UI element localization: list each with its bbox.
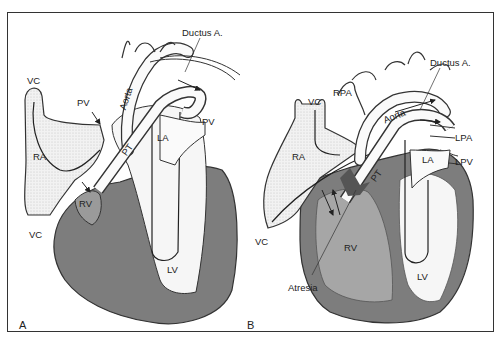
label-b-right-atrium: RA — [292, 152, 305, 162]
label-b-ductus-arteriosus: Ductus A. — [430, 58, 471, 68]
label-b-left-pulmonary-vein: LPV — [455, 157, 473, 167]
label-a-pulmonary-vein-left: PV — [77, 98, 90, 108]
label-b-left-atrium: LA — [422, 155, 434, 165]
label-b-vena-cava-bottom: VC — [255, 237, 268, 247]
heart-diagram-figure: Ductus A. VC PV Aorta PV LA PT RA RV VC … — [0, 0, 500, 352]
label-a-left-ventricle: LV — [167, 265, 178, 275]
label-a-ductus-arteriosus: Ductus A. — [182, 28, 223, 38]
label-a-left-atrium: LA — [157, 133, 169, 143]
label-a-right-atrium: RA — [33, 152, 46, 162]
panel-label-a: A — [19, 320, 26, 331]
panel-label-b: B — [247, 320, 254, 331]
label-a-vena-cava-bottom: VC — [29, 230, 42, 240]
label-b-left-pulmonary-artery: LPA — [455, 133, 472, 143]
label-b-left-ventricle: LV — [417, 272, 428, 282]
label-a-right-ventricle: RV — [79, 199, 92, 209]
label-b-vena-cava-top: VC — [308, 97, 321, 107]
label-b-right-ventricle: RV — [344, 243, 357, 253]
label-b-right-pulmonary-artery: RPA — [333, 88, 352, 98]
label-a-vena-cava-top: VC — [27, 76, 40, 86]
label-a-pulmonary-vein-right: PV — [202, 117, 215, 127]
panel-a-heart — [25, 38, 240, 324]
diagram-artwork — [0, 0, 500, 352]
label-b-atresia: Atresia — [288, 283, 318, 293]
